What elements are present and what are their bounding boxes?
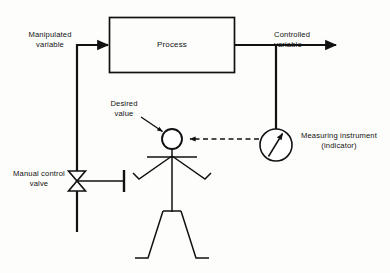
operator-stick-figure [133,149,211,258]
manipulated-variable-line [77,45,100,232]
label-manual-control-valve: Manual control valve [6,169,72,188]
desired-value-leader-line [141,117,163,132]
label-process-block: Process [132,40,212,50]
operator-right-arm [172,156,211,179]
operator-right-leg [181,211,209,258]
label-manipulated-variable: Manipulated variable [19,30,81,49]
label-desired-value: Desired value [101,99,147,118]
control-loop-diagram: Manipulated variable Process Controlled … [0,0,390,273]
label-controlled-variable: Controlled variable [274,30,340,49]
label-measuring-instrument: Measuring instrument (indicator) [293,131,385,150]
operator-left-leg [135,211,163,258]
operator-left-arm [133,156,172,179]
setpoint-node-icon [162,129,182,149]
